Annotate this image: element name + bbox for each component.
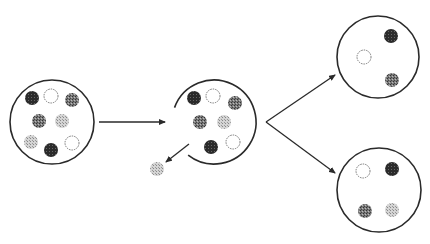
particle-open xyxy=(356,164,370,178)
container-after-ejection-set xyxy=(175,80,256,164)
diagram-canvas xyxy=(0,0,430,244)
particle-medium xyxy=(385,73,399,87)
container-outline xyxy=(337,148,421,232)
ejected-particle-layer xyxy=(150,162,164,176)
particle-open xyxy=(65,136,79,150)
particle-open xyxy=(226,135,240,149)
particle-light xyxy=(55,114,69,128)
arrow-ejection-icon xyxy=(166,144,189,162)
particle-light xyxy=(217,115,231,129)
particle-medium xyxy=(32,114,46,128)
particle-open xyxy=(357,50,371,64)
container-outline xyxy=(337,16,419,98)
particle-dark xyxy=(44,143,58,157)
container-subset-top xyxy=(337,16,419,98)
particle-dark xyxy=(385,162,399,176)
particle-open xyxy=(44,89,58,103)
container-subset-bottom xyxy=(337,148,421,232)
particle-light xyxy=(385,203,399,217)
particle-light xyxy=(150,162,164,176)
particle-dark xyxy=(204,140,218,154)
particle-dark xyxy=(25,91,39,105)
particle-medium xyxy=(193,115,207,129)
particle-split-diagram xyxy=(0,0,430,244)
container-initial-set xyxy=(10,80,94,164)
containers-layer xyxy=(10,16,421,232)
arrows-layer xyxy=(99,75,335,173)
particle-medium xyxy=(358,204,372,218)
particle-dark xyxy=(187,91,201,105)
particle-light xyxy=(24,135,38,149)
arrow-split-bottom-icon xyxy=(266,122,335,173)
particle-medium xyxy=(65,93,79,107)
arrow-split-top-icon xyxy=(266,75,335,122)
particle-dark xyxy=(384,29,398,43)
particle-open xyxy=(206,89,220,103)
particle-medium xyxy=(228,96,242,110)
